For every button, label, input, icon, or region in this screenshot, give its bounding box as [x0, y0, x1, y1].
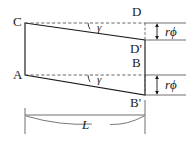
vertex-label-B: B	[132, 56, 141, 69]
angle-arc-gamma-bottom	[88, 75, 90, 82]
dimension-label-rphi-top: rϕ	[165, 25, 177, 38]
arrowhead-up-rphi-bottom	[155, 75, 159, 79]
vertex-label-D-prime: D'	[130, 42, 142, 55]
arrowhead-up-rphi-top	[155, 23, 159, 27]
angle-label-gamma-bottom: γ	[97, 74, 101, 85]
geometry-diagram: C A D D' B B' γ γ rϕ rϕ L	[0, 0, 195, 142]
angle-label-gamma-top: γ	[97, 22, 101, 33]
dim-curve-L-right	[110, 116, 144, 125]
vertex-label-B-prime: B'	[130, 96, 141, 109]
trapezoid-outline	[25, 23, 145, 95]
dimension-label-L: L	[82, 118, 89, 131]
arrowhead-down-rphi-top	[155, 36, 159, 40]
dimension-label-rphi-bottom: rϕ	[165, 78, 177, 91]
arrowhead-down-rphi-bottom	[155, 91, 159, 95]
vertex-label-D: D	[132, 5, 141, 18]
vertex-label-A: A	[13, 68, 22, 81]
angle-arc-gamma-top	[88, 23, 90, 29]
vertex-label-C: C	[13, 15, 22, 28]
